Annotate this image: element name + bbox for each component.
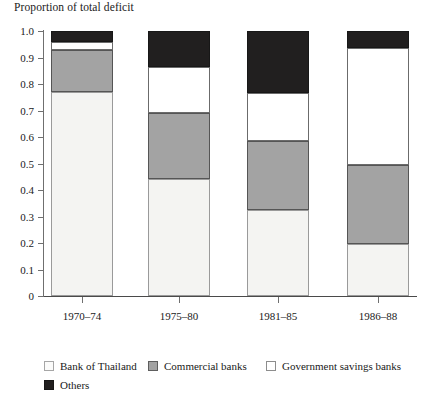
legend-item[interactable]: Government savings banks xyxy=(266,360,401,372)
bar-segment-government-savings-banks[interactable] xyxy=(347,48,409,165)
x-axis-tick xyxy=(82,297,83,303)
bar-segment-others[interactable] xyxy=(247,31,309,93)
x-axis-tick xyxy=(278,297,279,303)
legend-item[interactable]: Commercial banks xyxy=(148,360,247,372)
legend-label: Commercial banks xyxy=(164,360,247,372)
y-axis-tick-label: 1.0 xyxy=(0,26,34,36)
y-axis-tick-label: 0.5 xyxy=(0,159,34,169)
y-axis-tick-label: 0.9 xyxy=(0,53,34,63)
stacked-bar[interactable] xyxy=(51,31,113,296)
legend-swatch-icon xyxy=(44,380,54,390)
legend-item[interactable]: Bank of Thailand xyxy=(44,360,137,372)
legend-row: Bank of ThailandCommercial banksGovernme… xyxy=(44,360,424,379)
x-axis-tick-label: 1981–85 xyxy=(233,310,323,322)
y-axis-tick-label: 0.6 xyxy=(0,132,34,142)
legend-label: Government savings banks xyxy=(282,360,401,372)
stacked-bar[interactable] xyxy=(148,31,210,296)
plot-area xyxy=(44,31,416,296)
bar-segment-government-savings-banks[interactable] xyxy=(247,93,309,141)
x-axis-tick-label: 1975–80 xyxy=(134,310,224,322)
y-axis-tick-label: 0 xyxy=(0,291,34,301)
stacked-bar[interactable] xyxy=(347,31,409,296)
stacked-bar[interactable] xyxy=(247,31,309,296)
legend-item[interactable]: Others xyxy=(44,379,89,391)
legend-label: Bank of Thailand xyxy=(60,360,137,372)
chart-legend: Bank of ThailandCommercial banksGovernme… xyxy=(44,360,424,398)
legend-swatch-icon xyxy=(44,361,54,371)
x-axis-line xyxy=(43,296,417,297)
bar-segment-government-savings-banks[interactable] xyxy=(148,67,210,113)
y-axis-tick-label: 0.3 xyxy=(0,212,34,222)
legend-swatch-icon xyxy=(266,361,276,371)
bar-segment-commercial-banks[interactable] xyxy=(247,141,309,210)
y-axis-tick-label: 0.4 xyxy=(0,185,34,195)
bar-segment-others[interactable] xyxy=(51,31,113,42)
bar-segment-commercial-banks[interactable] xyxy=(51,50,113,92)
legend-row: Others xyxy=(44,379,424,398)
x-axis-tick-label: 1986–88 xyxy=(333,310,423,322)
legend-label: Others xyxy=(60,379,89,391)
x-axis-tick xyxy=(378,297,379,303)
legend-swatch-icon xyxy=(148,361,158,371)
y-axis-tick xyxy=(38,296,44,297)
bar-segment-government-savings-banks[interactable] xyxy=(51,42,113,49)
chart-title: Proportion of total deficit xyxy=(14,1,134,13)
bar-segment-bank-of-thailand[interactable] xyxy=(247,210,309,296)
bar-segment-others[interactable] xyxy=(148,31,210,67)
y-axis-tick-label: 0.2 xyxy=(0,238,34,248)
bar-segment-commercial-banks[interactable] xyxy=(148,113,210,179)
y-axis-tick-label: 0.8 xyxy=(0,79,34,89)
bar-segment-bank-of-thailand[interactable] xyxy=(148,179,210,296)
y-axis-tick-label: 0.1 xyxy=(0,265,34,275)
x-axis-tick-label: 1970–74 xyxy=(37,310,127,322)
y-axis-tick-label: 0.7 xyxy=(0,106,34,116)
bar-segment-others[interactable] xyxy=(347,31,409,48)
bar-segment-bank-of-thailand[interactable] xyxy=(51,92,113,296)
x-axis-tick xyxy=(179,297,180,303)
bar-segment-bank-of-thailand[interactable] xyxy=(347,244,409,296)
bar-segment-commercial-banks[interactable] xyxy=(347,165,409,245)
